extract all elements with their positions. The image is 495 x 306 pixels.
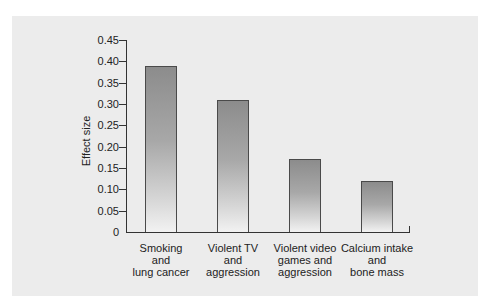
x-tick-label-line: bone mass	[332, 266, 422, 278]
x-tick-label: Calcium intakeandbone mass	[332, 242, 422, 278]
y-tick-label: 0.45	[98, 34, 119, 46]
y-tick-label: 0.05	[98, 205, 119, 217]
bar	[217, 100, 249, 232]
y-axis-line	[126, 40, 127, 233]
y-tick-label: 0.25	[98, 119, 119, 131]
x-axis-end-tick	[409, 226, 410, 233]
bar	[289, 159, 321, 232]
y-tick-mark	[119, 125, 126, 126]
x-tick-label-line: and	[332, 254, 422, 266]
y-tick-label: 0	[113, 226, 119, 238]
y-tick-label: 0.20	[98, 141, 119, 153]
x-tick-label-line: Calcium intake	[332, 242, 422, 254]
y-axis-label: Effect size	[80, 116, 92, 167]
y-tick-mark	[119, 168, 126, 169]
y-tick-label: 0.10	[98, 183, 119, 195]
y-tick-label: 0.40	[98, 55, 119, 67]
bar	[361, 181, 393, 232]
y-tick-label: 0.15	[98, 162, 119, 174]
y-tick-mark	[119, 104, 126, 105]
y-tick-label: 0.35	[98, 77, 119, 89]
y-tick-mark	[119, 211, 126, 212]
y-tick-mark	[119, 147, 126, 148]
y-tick-label: 0.30	[98, 98, 119, 110]
bar	[145, 66, 177, 232]
x-axis-line	[126, 232, 410, 233]
y-tick-mark	[119, 83, 126, 84]
y-tick-mark	[119, 189, 126, 190]
y-tick-mark	[119, 61, 126, 62]
y-tick-mark	[119, 40, 126, 41]
bar-chart: Effect size 00.050.100.150.200.250.300.3…	[0, 0, 495, 306]
